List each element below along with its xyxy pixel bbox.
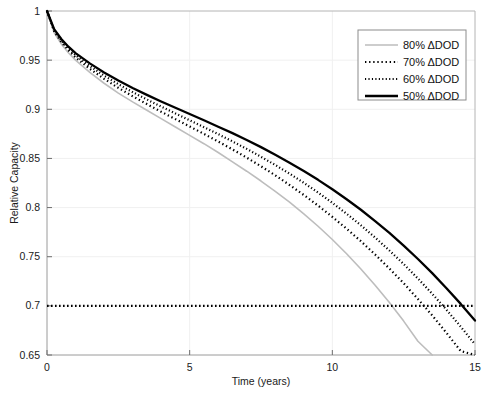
y-tick-label-0.85: 0.85: [20, 152, 41, 164]
chart-legend[interactable]: 80% ΔDOD70% ΔDOD60% ΔDOD50% ΔDOD: [358, 30, 466, 102]
legend-label-3: 60% ΔDOD: [403, 73, 459, 85]
y-tick-label-0.7: 0.7: [25, 299, 40, 311]
y-tick-label-0.8: 0.8: [25, 201, 40, 213]
x-tick-label-5: 5: [187, 361, 193, 373]
legend-label-4: 50% ΔDOD: [403, 90, 459, 102]
x-tick-label-15: 15: [469, 361, 481, 373]
y-tick-label-0.75: 0.75: [20, 250, 41, 262]
x-tick-label-10: 10: [326, 361, 338, 373]
chart-figure: 0.650.70.750.80.850.90.951 051015 Relati…: [0, 0, 495, 394]
x-tick-label-0: 0: [44, 361, 50, 373]
x-axis-title: Time (years): [232, 375, 291, 387]
y-tick-label-0.9: 0.9: [25, 103, 40, 115]
relative-capacity-vs-time-chart: 0.650.70.750.80.850.90.951 051015 Relati…: [0, 0, 495, 394]
legend-label-2: 70% ΔDOD: [403, 56, 459, 68]
y-tick-label-0.95: 0.95: [20, 54, 41, 66]
y-axis-title: Relative Capacity: [8, 141, 20, 223]
y-tick-label-1: 1: [34, 5, 40, 17]
y-tick-label-0.65: 0.65: [20, 349, 41, 361]
legend-label-1: 80% ΔDOD: [403, 39, 459, 51]
